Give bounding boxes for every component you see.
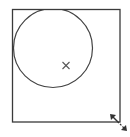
circle-shape[interactable]: [14, 9, 93, 88]
center-x-icon: [63, 62, 70, 69]
diagram-canvas: [0, 0, 130, 137]
